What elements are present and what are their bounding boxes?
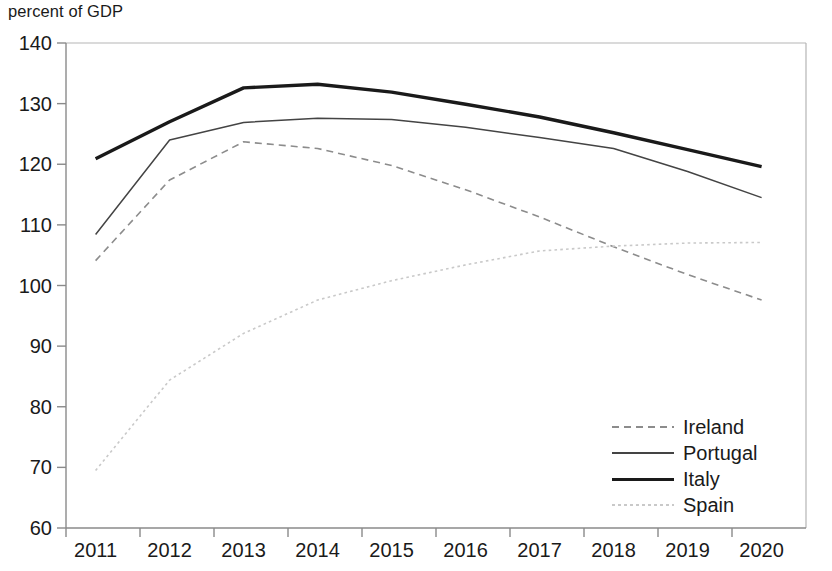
chart-legend: IrelandPortugalItalySpain <box>612 414 822 518</box>
x-axis-tick-label: 2017 <box>500 540 580 560</box>
legend-swatch-ireland <box>612 420 674 434</box>
x-axis-tick-label: 2016 <box>426 540 506 560</box>
x-axis-tick-label: 2020 <box>722 540 802 560</box>
x-axis-tick-label: 2014 <box>278 540 358 560</box>
legend-item-ireland[interactable]: Ireland <box>612 414 822 440</box>
legend-item-spain[interactable]: Spain <box>612 492 822 518</box>
legend-swatch-italy <box>612 472 674 486</box>
chart-container: percent of GDP 14013012011010090807060 2… <box>0 0 832 571</box>
legend-swatch-portugal <box>612 446 674 460</box>
legend-label: Ireland <box>683 417 744 437</box>
legend-swatch-spain <box>612 498 674 512</box>
legend-item-italy[interactable]: Italy <box>612 466 822 492</box>
legend-label: Portugal <box>683 443 758 463</box>
legend-item-portugal[interactable]: Portugal <box>612 440 822 466</box>
legend-label: Italy <box>683 469 720 489</box>
x-axis-tick-label: 2019 <box>648 540 728 560</box>
x-axis-tick-label: 2011 <box>56 540 136 560</box>
x-axis-tick-label: 2018 <box>574 540 654 560</box>
x-axis-tick-label: 2012 <box>130 540 210 560</box>
x-axis-tick-label: 2013 <box>204 540 284 560</box>
legend-label: Spain <box>683 495 734 515</box>
x-axis-tick-label: 2015 <box>352 540 432 560</box>
